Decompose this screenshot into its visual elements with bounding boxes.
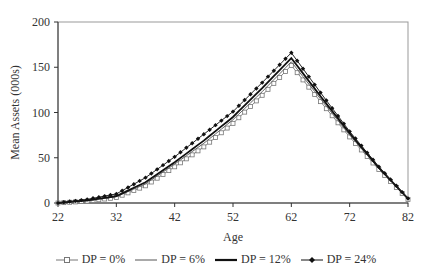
- y-axis-label: Mean Assets (000s): [8, 65, 22, 160]
- legend-item-dp-24: DP = 24%: [301, 252, 377, 267]
- legend-item-dp-6: DP = 6%: [135, 252, 205, 267]
- y-tick-label: 200: [32, 15, 50, 29]
- legend-item-dp-0: DP = 0%: [56, 252, 126, 267]
- x-tick-label: 82: [402, 210, 414, 224]
- x-tick-label: 52: [227, 210, 239, 224]
- x-tick-label: 22: [52, 210, 64, 224]
- y-tick-label: 50: [38, 151, 50, 165]
- legend-label: DP = 24%: [327, 252, 377, 267]
- legend-label: DP = 0%: [82, 252, 126, 267]
- legend-label: DP = 12%: [241, 252, 291, 267]
- series-6pct: [58, 62, 408, 203]
- thin-line-icon: [135, 255, 157, 265]
- x-tick-label: 42: [169, 210, 181, 224]
- chart-area: 05010015020022324252627282AgeMean Assets…: [0, 0, 432, 278]
- series-12pct: [58, 58, 408, 203]
- x-tick-label: 72: [344, 210, 356, 224]
- legend-item-dp-12: DP = 12%: [215, 252, 291, 267]
- x-axis-label: Age: [223, 230, 243, 244]
- y-tick-label: 150: [32, 60, 50, 74]
- series-24pct: [56, 51, 410, 206]
- series-0pct: [56, 63, 410, 205]
- filled-diamond-marker-icon: [301, 255, 323, 265]
- legend: DP = 0% DP = 6% DP = 12% DP = 24%: [0, 252, 432, 267]
- open-square-marker-icon: [56, 255, 78, 265]
- x-tick-label: 62: [285, 210, 297, 224]
- thick-line-icon: [215, 255, 237, 265]
- x-tick-label: 32: [110, 210, 122, 224]
- line-chart: 05010015020022324252627282AgeMean Assets…: [0, 0, 432, 278]
- y-tick-label: 0: [44, 196, 50, 210]
- legend-label: DP = 6%: [161, 252, 205, 267]
- y-tick-label: 100: [32, 106, 50, 120]
